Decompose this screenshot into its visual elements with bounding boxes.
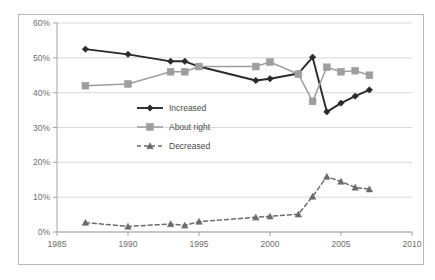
series-line <box>85 177 369 227</box>
marker-square <box>181 68 188 75</box>
series-decreased <box>82 173 372 229</box>
marker-square <box>352 67 359 74</box>
legend-label: About right <box>169 122 211 132</box>
chart-legend: IncreasedAbout rightDecreased <box>137 103 211 151</box>
marker-square <box>366 72 373 79</box>
marker-square <box>167 68 174 75</box>
marker-diamond <box>125 51 131 57</box>
x-tick-label-1985: 1985 <box>48 239 67 249</box>
y-tick-label-20: 20% <box>33 157 50 167</box>
marker-square <box>295 71 302 78</box>
marker-diamond <box>366 87 372 93</box>
chart-figure: 0%10%20%30%40%50%60% 1985199019952000200… <box>0 0 435 280</box>
x-tick-label-1995: 1995 <box>190 239 209 249</box>
legend-item-decreased[interactable]: Decreased <box>137 141 210 151</box>
legend-label: Increased <box>169 103 207 113</box>
x-tick-label-1990: 1990 <box>119 239 138 249</box>
legend-item-increased[interactable]: Increased <box>137 103 207 113</box>
marker-diamond <box>253 77 259 83</box>
x-tick-label-2000: 2000 <box>261 239 280 249</box>
marker-square <box>338 68 345 75</box>
axes <box>53 23 412 236</box>
gridlines <box>57 23 412 232</box>
y-tick-label-0: 0% <box>38 227 51 237</box>
y-tick-label-40: 40% <box>33 88 50 98</box>
marker-square <box>196 63 203 70</box>
data-series <box>82 46 373 229</box>
y-tick-label-50: 50% <box>33 53 50 63</box>
marker-diamond <box>82 46 88 52</box>
chart-plot-svg: 0%10%20%30%40%50%60% 1985199019952000200… <box>0 0 435 280</box>
marker-diamond <box>182 58 188 64</box>
series-about-right <box>82 59 373 105</box>
marker-diamond <box>167 58 173 64</box>
marker-square <box>125 81 132 88</box>
marker-diamond <box>267 76 273 82</box>
marker-square <box>147 124 154 131</box>
marker-square <box>82 82 89 89</box>
y-tick-label-60: 60% <box>33 18 50 28</box>
marker-triangle <box>324 173 330 179</box>
y-tick-label-10: 10% <box>33 192 50 202</box>
marker-diamond <box>147 105 153 111</box>
marker-square <box>252 63 259 70</box>
y-axis-tick-labels: 0%10%20%30%40%50%60% <box>33 18 50 237</box>
x-tick-label-2005: 2005 <box>332 239 351 249</box>
marker-square <box>267 59 274 66</box>
x-axis-tick-labels: 198519901995200020052010 <box>48 239 422 249</box>
marker-diamond <box>352 93 358 99</box>
legend-label: Decreased <box>169 141 210 151</box>
legend-item-about-right[interactable]: About right <box>137 122 211 132</box>
marker-square <box>309 98 316 105</box>
marker-square <box>323 64 330 71</box>
y-tick-label-30: 30% <box>33 123 50 133</box>
x-tick-label-2010: 2010 <box>403 239 422 249</box>
